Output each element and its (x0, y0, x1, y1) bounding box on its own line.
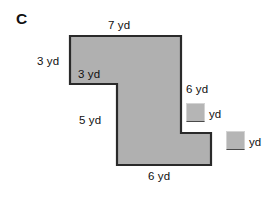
dimension-label-top: 7 yd (108, 20, 130, 32)
answer-unit-label-2: yd (249, 137, 261, 149)
answer-unit-label-1: yd (209, 109, 221, 121)
answer-slot-1[interactable]: yd (186, 103, 221, 122)
dimension-label-left-outer: 3 yd (37, 56, 59, 68)
figure-canvas: C 7 yd 3 yd 3 yd 6 yd 5 yd 6 yd yd yd (0, 0, 275, 197)
dimension-label-right: 6 yd (186, 84, 208, 96)
composite-polygon (70, 36, 211, 165)
answer-slot-2[interactable]: yd (226, 131, 261, 150)
dimension-label-inner-top-left: 3 yd (78, 69, 100, 81)
answer-input-box-2[interactable] (226, 131, 245, 150)
composite-shape-diagram (0, 0, 275, 197)
answer-input-box-1[interactable] (186, 103, 205, 122)
dimension-label-left-stem: 5 yd (79, 115, 101, 127)
dimension-label-bottom: 6 yd (148, 171, 170, 183)
